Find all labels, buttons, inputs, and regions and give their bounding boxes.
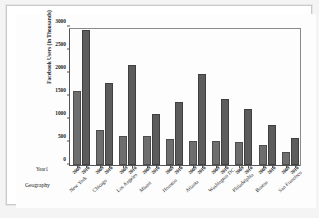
y-tick-label: 3000 bbox=[55, 18, 70, 24]
screenshot-root: Facebook Users (in Thousands) 0500100015… bbox=[0, 0, 319, 218]
bar-group bbox=[186, 28, 209, 165]
bar-2010-philadelphia[interactable] bbox=[244, 109, 252, 165]
bar-group bbox=[163, 28, 186, 165]
year-tick-label: 2010 bbox=[266, 165, 276, 175]
year-tick-label: 2010 bbox=[196, 165, 206, 175]
bar-2010-washington-dc[interactable] bbox=[221, 99, 229, 165]
geography-axis-caption: Geography bbox=[25, 182, 50, 188]
chart-outer-frame: Facebook Users (in Thousands) 0500100015… bbox=[6, 5, 312, 205]
bar-group bbox=[209, 28, 232, 165]
y-tick-label: 1500 bbox=[55, 87, 70, 93]
bar-group bbox=[232, 28, 255, 165]
geography-tick-label: Miami bbox=[138, 180, 152, 194]
y-tick-label: 500 bbox=[58, 133, 70, 139]
bar-group bbox=[256, 28, 279, 165]
bar-2009-san-francisco[interactable] bbox=[282, 152, 290, 165]
y-tick-label: 1000 bbox=[55, 110, 70, 116]
geography-tick-label: New York bbox=[68, 175, 88, 194]
bar-2009-washington-dc[interactable] bbox=[212, 141, 220, 165]
bar-2010-miami[interactable] bbox=[152, 114, 160, 165]
geography-tick-label: Houston bbox=[161, 177, 178, 193]
year-tick-label: 2010 bbox=[173, 165, 183, 175]
bar-2009-houston[interactable] bbox=[166, 139, 174, 165]
year-axis-caption: Year1 bbox=[36, 166, 48, 172]
y-tick-label: 0 bbox=[63, 156, 70, 162]
bar-2009-atlanta[interactable] bbox=[189, 141, 197, 165]
bar-2009-boston[interactable] bbox=[259, 145, 267, 165]
year-tick-label: 2010 bbox=[150, 165, 160, 175]
bar-group bbox=[116, 28, 139, 165]
chart-card: Facebook Users (in Thousands) 0500100015… bbox=[16, 14, 316, 208]
bar-series-container bbox=[70, 28, 301, 165]
year-tick-label: 2009 bbox=[234, 165, 244, 175]
bar-2010-chicago[interactable] bbox=[105, 83, 113, 165]
bar-2010-san-francisco[interactable] bbox=[291, 138, 299, 165]
y-tick-label: 2500 bbox=[55, 41, 70, 47]
bar-2009-chicago[interactable] bbox=[96, 130, 104, 165]
bar-group bbox=[140, 28, 163, 165]
plot-area: 050010001500200025003000 bbox=[69, 28, 301, 166]
geography-tick-label: Philadelphia bbox=[230, 171, 253, 193]
year-tick-label: 2010 bbox=[80, 165, 90, 175]
geography-tick-label: Atlanta bbox=[184, 179, 199, 194]
year-tick-label: 2010 bbox=[104, 165, 114, 175]
year-tick-label: 2009 bbox=[118, 165, 128, 175]
bar-2009-miami[interactable] bbox=[143, 136, 151, 165]
bar-2009-philadelphia[interactable] bbox=[235, 142, 243, 165]
geography-tick-label: Chicago bbox=[91, 177, 108, 193]
bar-2010-new-york[interactable] bbox=[82, 30, 90, 165]
geography-tick-label: Los Angeles bbox=[114, 172, 137, 194]
bar-group bbox=[93, 28, 116, 165]
y-axis-title: Facebook Users (in Thousands) bbox=[46, 0, 52, 102]
bar-2010-boston[interactable] bbox=[268, 125, 276, 165]
bar-group bbox=[279, 28, 302, 165]
bar-group bbox=[70, 28, 93, 165]
bar-2010-los-angeles[interactable] bbox=[128, 65, 136, 165]
bar-2010-atlanta[interactable] bbox=[198, 74, 206, 165]
bar-2010-houston[interactable] bbox=[175, 102, 183, 165]
geography-tick-label: Boston bbox=[254, 179, 269, 193]
y-tick-label: 2000 bbox=[55, 64, 70, 70]
y-tick-mark bbox=[67, 26, 70, 27]
bar-2009-los-angeles[interactable] bbox=[119, 136, 127, 165]
bar-2009-new-york[interactable] bbox=[73, 91, 81, 165]
